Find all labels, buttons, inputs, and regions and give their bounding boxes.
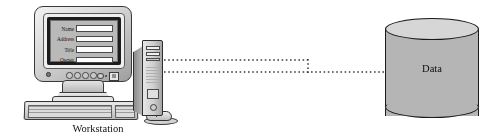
form-input-name[interactable] (76, 25, 113, 32)
monitor-button-1[interactable] (66, 72, 73, 79)
database-cylinder-top-ellipse (385, 18, 479, 40)
monitor-button-3[interactable] (82, 72, 89, 79)
tower-drive-bay-2[interactable] (146, 52, 160, 56)
workstation-group: Name Address Title Owner (0, 0, 200, 140)
monitor-knob[interactable] (97, 73, 104, 79)
form-input-title[interactable] (76, 46, 113, 53)
form-label-name: Name (62, 26, 76, 32)
monitor-bezel: Name Address Title Owner (43, 13, 125, 69)
form-row-owner: Owner (54, 56, 113, 65)
monitor-button-4[interactable] (90, 72, 97, 79)
monitor-power-button[interactable] (109, 72, 119, 81)
tower-drive-bay-3[interactable] (146, 58, 160, 61)
keyboard[interactable] (24, 101, 139, 120)
form-row-address: Address (54, 35, 113, 44)
monitor-stand-neck (62, 80, 104, 94)
keyboard-main-keys[interactable] (28, 105, 112, 118)
monitor: Name Address Title Owner (34, 6, 132, 82)
form-label-title: Title (64, 47, 76, 53)
form-input-owner[interactable] (76, 57, 113, 64)
monitor-indicator-dot-icon (105, 75, 107, 77)
monitor-power-led-icon (46, 72, 51, 77)
workstation-caption: Workstation (38, 122, 158, 135)
monitor-screen: Name Address Title Owner (50, 20, 118, 62)
monitor-screen-frame: Name Address Title Owner (47, 17, 121, 65)
form-input-address[interactable] (76, 36, 113, 43)
monitor-button-2[interactable] (74, 72, 81, 79)
tower-drive-bay-1[interactable] (146, 46, 160, 50)
tower-front-panel (142, 40, 163, 116)
monitor-power-button-face (112, 74, 116, 79)
network-diagram: Name Address Title Owner (0, 0, 501, 140)
tower-vent-icon (146, 67, 160, 83)
monitor-control-buttons[interactable] (66, 72, 97, 79)
tower-floppy-drive[interactable] (147, 89, 159, 99)
form-label-address: Address (57, 36, 76, 42)
database-label: Data (383, 62, 481, 75)
numpad-key-columns (116, 106, 134, 117)
form-row-name: Name (54, 24, 113, 33)
form-label-owner: Owner (60, 57, 76, 63)
form-row-title: Title (54, 45, 113, 54)
database-cylinder: Data (383, 18, 483, 124)
tower-computer (133, 40, 163, 116)
tower-power-button[interactable] (150, 104, 157, 111)
keyboard-key-columns (29, 106, 111, 117)
